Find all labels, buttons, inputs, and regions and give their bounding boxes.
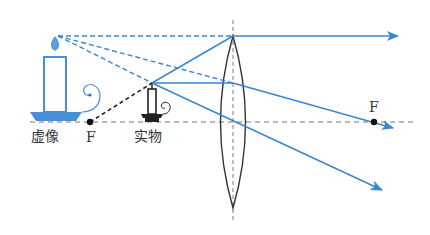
focus-point-left [87, 119, 93, 125]
virtual-image-candle [30, 36, 100, 121]
ray-diagram [0, 0, 430, 235]
focus-right-label: F [369, 100, 379, 114]
virtual-ray-extensions [58, 36, 233, 83]
ray-through-center [152, 83, 382, 190]
focus-left-label: F [86, 130, 96, 144]
real-rays [152, 36, 398, 190]
virtual-image-label: 虚像 [31, 129, 59, 143]
real-object-label: 实物 [134, 129, 162, 143]
focus-point-right [371, 119, 377, 125]
